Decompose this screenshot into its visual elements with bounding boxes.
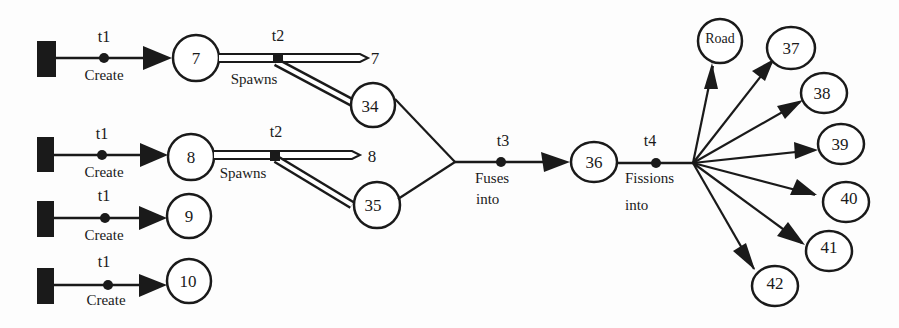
node-label: 35 (365, 196, 382, 215)
arrowhead-icon (541, 152, 570, 172)
node-label: 34 (362, 97, 380, 116)
transition-dot-icon (99, 53, 109, 63)
node-36[interactable]: 36 (571, 142, 617, 182)
node-road[interactable]: Road (698, 19, 742, 63)
node-label: 10 (180, 272, 197, 291)
node-35[interactable]: 35 (354, 182, 400, 228)
transition-dot-icon (270, 150, 280, 161)
time-label: t1 (98, 187, 110, 204)
time-label: t2 (272, 27, 284, 44)
node-9[interactable]: 9 (167, 194, 211, 238)
arrowhead-icon (752, 59, 774, 81)
source-block-icon (37, 41, 56, 77)
transition-label: Create (84, 67, 123, 83)
node-label: 42 (767, 274, 784, 293)
node-10[interactable]: 10 (167, 259, 211, 303)
transition-label: Fissions (625, 170, 674, 186)
arrowhead-icon (794, 142, 818, 159)
source-block-icon (37, 201, 54, 237)
node-label: 38 (814, 84, 831, 103)
node-7[interactable]: 7 (173, 35, 219, 81)
transition-label: Create (84, 227, 123, 243)
transition-label-line2: into (476, 191, 499, 207)
node-label: 9 (185, 207, 194, 226)
fuse-edge: t3 Fuses into (395, 99, 570, 207)
node-41[interactable]: 41 (806, 231, 852, 271)
node-34[interactable]: 34 (351, 83, 395, 127)
node-label: 39 (832, 135, 849, 154)
transition-dot-icon (496, 157, 506, 167)
arrowhead-icon (139, 206, 167, 230)
arrowhead-icon (139, 274, 167, 297)
transition-label-line2: into (625, 197, 648, 213)
node-label: 7 (192, 49, 201, 68)
diagram-svg: t1 Create 7 t2 Spawns 7 34 t1 Create 8 (0, 0, 899, 328)
time-label: t4 (644, 132, 656, 149)
create-row-7: t1 Create (37, 28, 172, 83)
transition-label: Spawns (231, 71, 278, 87)
arrowhead-icon (140, 143, 168, 167)
transition-dot-icon (273, 53, 283, 63)
node-37[interactable]: 37 (767, 27, 815, 69)
arrowhead-icon (777, 222, 805, 245)
continuation-label: 8 (368, 147, 377, 166)
fission-edge: t4 Fissions into (617, 59, 818, 270)
time-label: t2 (270, 123, 282, 140)
arrowhead-icon (733, 243, 755, 270)
transition-label: Spawns (220, 165, 267, 181)
transition-label: Fuses (475, 170, 509, 186)
node-38[interactable]: 38 (801, 73, 847, 113)
node-40[interactable]: 40 (823, 182, 869, 222)
create-row-10: t1 Create (37, 253, 167, 308)
source-block-icon (37, 137, 54, 172)
spawn-edge-8: t2 Spawns 8 (214, 123, 376, 205)
time-label: t1 (98, 253, 110, 270)
transition-dot-icon (103, 280, 113, 290)
source-block-icon (37, 268, 54, 304)
time-label: t1 (96, 125, 108, 142)
create-row-8: t1 Create (37, 125, 168, 180)
transition-dot-icon (651, 158, 661, 168)
node-label: Road (705, 31, 735, 46)
node-label: 41 (821, 238, 838, 257)
time-label: t1 (98, 28, 110, 45)
transition-label: Create (86, 292, 125, 308)
create-row-9: t1 Create (37, 187, 167, 243)
node-label: 8 (187, 148, 196, 167)
node-8[interactable]: 8 (168, 134, 214, 180)
arrowhead-icon (790, 179, 817, 195)
node-39[interactable]: 39 (818, 124, 864, 164)
node-42[interactable]: 42 (752, 266, 798, 306)
transition-dot-icon (100, 213, 110, 223)
transition-label: Create (84, 164, 123, 180)
lifecycle-diagram: t1 Create 7 t2 Spawns 7 34 t1 Create 8 (0, 0, 899, 328)
continuation-label: 7 (371, 49, 380, 68)
node-label: 36 (586, 153, 603, 172)
transition-dot-icon (97, 150, 107, 160)
arrowhead-icon (777, 100, 803, 119)
arrowhead-icon (704, 63, 718, 89)
node-label: 40 (841, 189, 858, 208)
time-label: t3 (497, 132, 509, 149)
node-label: 37 (783, 39, 801, 58)
arrowhead-icon (143, 46, 172, 70)
